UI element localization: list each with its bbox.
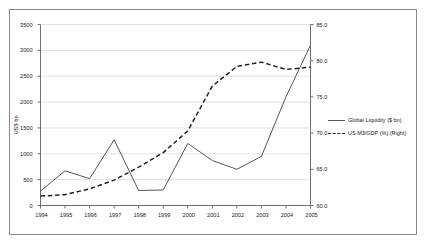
- chart-plot: [0, 0, 429, 251]
- series-line: [41, 45, 311, 191]
